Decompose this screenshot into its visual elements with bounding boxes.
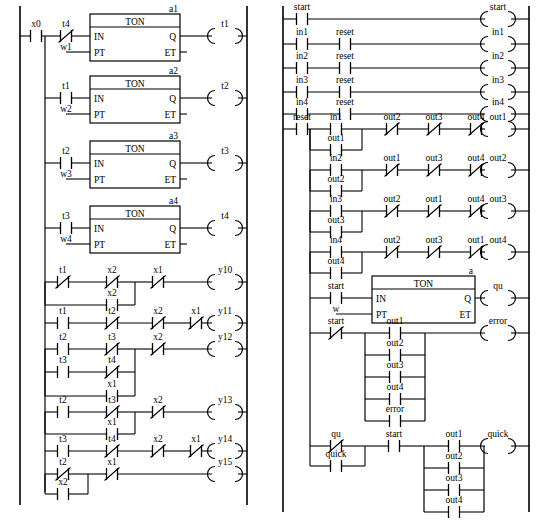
contact-error-par-out2[interactable]: out2 [387, 338, 404, 362]
ton-name: TON [125, 17, 144, 27]
coil-in2[interactable]: in2 [481, 51, 516, 76]
contact-error-par-out3[interactable]: out3 [387, 360, 404, 384]
contact-label: t4 [62, 19, 70, 29]
contact-rung-out1-ser-out3[interactable]: out3 [426, 112, 443, 136]
coil-y13[interactable]: y13 [208, 395, 243, 420]
coil-t3[interactable]: t3 [208, 146, 243, 171]
contact-y15-x2-br[interactable]: x2 [58, 477, 69, 501]
coil-out1[interactable]: out1 [481, 112, 516, 137]
coil-in1[interactable]: in1 [481, 27, 516, 52]
contact-rung-out4-in4[interactable]: in4 [330, 235, 342, 259]
contact-rung-in1-reset[interactable]: reset [336, 27, 354, 51]
ton-block-a2[interactable]: TONa2INPTQET [90, 66, 180, 124]
contact-y15-x1[interactable]: x1 [105, 457, 120, 481]
coil-t1[interactable]: t1 [208, 19, 243, 44]
contact-y14-t3-0[interactable]: t3 [58, 434, 69, 458]
ton-in-label: IN [94, 224, 104, 234]
contact-rung-out1-ser-out2[interactable]: out2 [384, 112, 401, 136]
contact-y12-t4-br[interactable]: t4 [105, 355, 120, 379]
contact-rung-in2-reset[interactable]: reset [336, 51, 354, 75]
coil-y11[interactable]: y11 [208, 306, 243, 331]
contact-label: in3 [330, 194, 342, 204]
contact-out1-reset-seed[interactable]: reset [293, 112, 311, 136]
contact-t1-a2[interactable]: t1 [61, 81, 72, 105]
contact-y13-t2[interactable]: t2 [58, 395, 69, 419]
contact-qu-start[interactable]: start [328, 281, 345, 305]
coil-y15[interactable]: y15 [208, 457, 243, 482]
contact-y11-x2-2[interactable]: x2 [151, 306, 166, 330]
contact-rung-out4-ser-out3[interactable]: out3 [426, 235, 443, 259]
contact-y10-x2[interactable]: x2 [105, 265, 120, 289]
contact-y13-x2[interactable]: x2 [151, 395, 166, 419]
ton-block-a1[interactable]: TONa1INPTQET [90, 4, 180, 62]
contact-y14-x1-3[interactable]: x1 [189, 434, 204, 458]
contact-error-par-error[interactable]: error [386, 404, 405, 428]
contact-label: start [328, 281, 345, 291]
contact-rung-out3-ser-out2[interactable]: out2 [384, 194, 401, 218]
contact-label: t3 [62, 211, 70, 221]
contact-y11-t1-0[interactable]: t1 [58, 306, 69, 330]
contact-t4-a1[interactable]: t4 [59, 19, 74, 43]
coil-label: y11 [218, 306, 232, 316]
coil-y14[interactable]: y14 [208, 434, 243, 459]
coil-qu[interactable]: qu [481, 281, 516, 306]
coil-start[interactable]: start [481, 2, 516, 27]
contact-rung-out2-in2[interactable]: in2 [330, 153, 342, 177]
coil-label: quick [487, 429, 508, 439]
coil-label: y12 [218, 332, 233, 342]
contact-rung-out3-ser-out1[interactable]: out1 [426, 194, 443, 218]
contact-quick-par-out2[interactable]: out2 [446, 451, 463, 475]
contact-y14-x2-2[interactable]: x2 [151, 434, 166, 458]
contact-rung-out4-ser-out2[interactable]: out2 [384, 235, 401, 259]
contact-error-start[interactable]: start [328, 316, 345, 340]
contact-rung-in3-in3[interactable]: in3 [296, 75, 308, 99]
contact-label: quick [325, 449, 346, 459]
contact-rung-out4-out4[interactable]: out4 [328, 256, 345, 280]
contact-rung-in2-in2[interactable]: in2 [296, 51, 308, 75]
contact-y12-t3[interactable]: t3 [105, 332, 120, 356]
contact-label: reset [293, 112, 311, 122]
ton-block-a3[interactable]: TONa3INPTQET [90, 131, 180, 189]
coil-y10[interactable]: y10 [208, 265, 243, 290]
contact-error-par-out4[interactable]: out4 [387, 382, 404, 406]
contact-rung-out3-in3[interactable]: in3 [330, 194, 342, 218]
contact-y11-x1-3[interactable]: x1 [189, 306, 204, 330]
ton-block-a[interactable]: TONaINPTQET [372, 266, 475, 324]
coil-out2[interactable]: out2 [481, 153, 516, 178]
contact-t3-a4[interactable]: t3 [61, 211, 72, 235]
contact-rung-out1-in1[interactable]: in1 [330, 112, 342, 136]
contact-quick-par-out3[interactable]: out3 [446, 473, 463, 497]
ton-pt-label: PT [94, 175, 105, 185]
contact-y10-x1[interactable]: x1 [151, 265, 166, 289]
coil-y12[interactable]: y12 [208, 332, 243, 357]
contact-quick-par-out4[interactable]: out4 [446, 495, 463, 519]
contact-label: t3 [108, 332, 116, 342]
contact-rung-out2-ser-out1[interactable]: out1 [384, 153, 401, 177]
contact-y12-t2[interactable]: t2 [58, 332, 69, 356]
coil-error[interactable]: error [481, 316, 516, 341]
contact-quick-start[interactable]: start [386, 429, 403, 453]
contact-rung-in3-reset[interactable]: reset [336, 75, 354, 99]
coil-quick[interactable]: quick [481, 429, 516, 454]
contact-y12-t3-br[interactable]: t3 [58, 355, 69, 379]
contact-label: t4 [108, 434, 116, 444]
contact-rung-in1-in1[interactable]: in1 [296, 27, 308, 51]
ton-q-label: Q [169, 32, 176, 42]
contact-x0[interactable]: x0 [31, 19, 42, 43]
contact-y10-t1[interactable]: t1 [56, 265, 71, 289]
coil-label: error [489, 316, 508, 326]
contact-rung-out2-ser-out3[interactable]: out3 [426, 153, 443, 177]
contact-quick-quick[interactable]: quick [325, 449, 346, 473]
contact-y12-x2[interactable]: x2 [151, 332, 166, 356]
coil-out3[interactable]: out3 [481, 194, 516, 219]
contact-rung-start-start[interactable]: start [294, 2, 311, 26]
coil-t2[interactable]: t2 [208, 81, 243, 106]
contact-quick-par-out1[interactable]: out1 [446, 429, 463, 453]
coil-t4[interactable]: t4 [208, 211, 243, 236]
ton-block-a4[interactable]: TONa4INPTQET [90, 196, 180, 254]
contact-label: out4 [468, 153, 485, 163]
contact-error-par-out1[interactable]: out1 [387, 316, 404, 340]
coil-out4[interactable]: out4 [481, 235, 516, 260]
contact-label: in2 [330, 153, 342, 163]
contact-t2-a3[interactable]: t2 [61, 146, 72, 170]
